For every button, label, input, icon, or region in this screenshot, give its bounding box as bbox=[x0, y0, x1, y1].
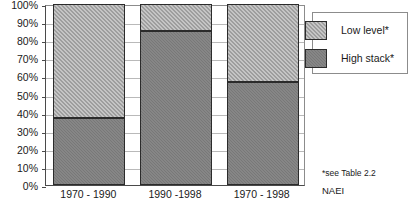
stacked-bar-chart: 100%90%80%70%60%50%40%30%20%10%0% 1970 -… bbox=[0, 0, 410, 216]
y-tick-label: 80% bbox=[17, 36, 38, 47]
x-axis: 1970 - 19901990 -19981970 - 1998 bbox=[45, 189, 305, 209]
footnotes: *see Table 2.2 NAEI bbox=[322, 168, 410, 197]
bars-layer bbox=[46, 6, 304, 185]
plot-area bbox=[45, 5, 305, 186]
chart-legend: Low level*High stack* bbox=[312, 12, 408, 74]
y-tick-label: 30% bbox=[17, 126, 38, 137]
x-tick-label: 1970 - 1998 bbox=[218, 189, 305, 201]
x-tick-label: 1970 - 1990 bbox=[45, 189, 132, 201]
bar-segment-high-stack[interactable] bbox=[140, 31, 212, 185]
y-tick-label: 20% bbox=[17, 145, 38, 156]
y-tick-label: 0% bbox=[23, 181, 38, 192]
x-tick-label: 1990 -1998 bbox=[132, 189, 219, 201]
bar-segment-low-level[interactable] bbox=[227, 4, 299, 82]
footnote-source: NAEI bbox=[322, 185, 410, 196]
y-tick-label: 10% bbox=[17, 163, 38, 174]
y-tick-label: 70% bbox=[17, 54, 38, 65]
legend-item[interactable]: High stack* bbox=[305, 49, 399, 71]
footnote-table-reference: *see Table 2.2 bbox=[322, 168, 410, 178]
legend-label: High stack* bbox=[341, 52, 394, 64]
y-axis: 100%90%80%70%60%50%40%30%20%10%0% bbox=[0, 0, 44, 188]
legend-swatch bbox=[305, 49, 327, 68]
bar-segment-high-stack[interactable] bbox=[227, 82, 299, 185]
y-tick-label: 50% bbox=[17, 90, 38, 101]
bar-column[interactable] bbox=[140, 6, 212, 185]
y-tick-mark bbox=[42, 187, 46, 188]
legend-swatch bbox=[305, 21, 327, 40]
y-tick-label: 40% bbox=[17, 108, 38, 119]
bar-segment-low-level[interactable] bbox=[140, 4, 212, 31]
y-tick-label: 100% bbox=[11, 0, 38, 10]
y-tick-label: 60% bbox=[17, 72, 38, 83]
bar-segment-high-stack[interactable] bbox=[53, 118, 125, 185]
bar-column[interactable] bbox=[53, 6, 125, 185]
bar-segment-low-level[interactable] bbox=[53, 4, 125, 118]
y-tick-label: 90% bbox=[17, 18, 38, 29]
bar-column[interactable] bbox=[227, 6, 299, 185]
legend-item[interactable]: Low level* bbox=[305, 21, 399, 43]
legend-label: Low level* bbox=[341, 24, 389, 36]
